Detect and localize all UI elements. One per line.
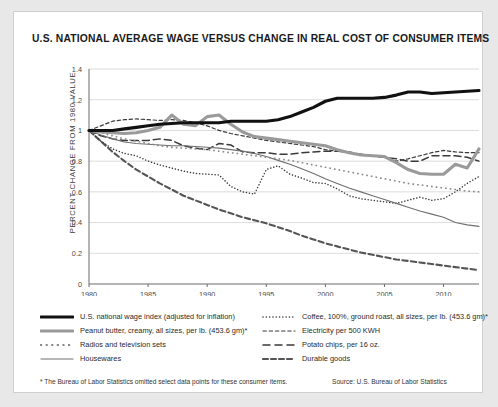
- legend-item-label: Potato chips, per 16 oz.: [302, 339, 380, 351]
- legend-item[interactable]: Radios and television sets: [40, 338, 270, 352]
- legend-swatch-icon: [262, 353, 296, 365]
- legend-item-label: Housewares: [80, 353, 121, 365]
- legend-item[interactable]: U.S. national wage index (adjusted for i…: [40, 310, 270, 324]
- y-tick-label: 1.4: [72, 65, 82, 74]
- legend-item-label: Peanut butter, creamy, all sizes, per lb…: [80, 325, 247, 337]
- x-tick-label: 1980: [81, 290, 97, 296]
- legend-swatch-icon: [40, 353, 74, 365]
- y-tick-label: 1: [78, 126, 82, 135]
- chart-svg: 00.20.40.60.811.21.419801985199019952000…: [27, 56, 484, 296]
- y-tick-label: 0.2: [72, 249, 82, 258]
- x-tick-label: 1995: [258, 290, 274, 296]
- legend-item-label: Radios and television sets: [80, 339, 166, 351]
- series-line: [89, 91, 479, 131]
- legend-swatch-icon: [40, 311, 74, 323]
- plot-area: PERCENT CHANGE FROM 1980 VALUE 00.20.40.…: [27, 56, 484, 296]
- legend-swatch-icon: [40, 339, 74, 351]
- series-line: [89, 130, 479, 270]
- source-text: Source: U.S. Bureau of Labor Statistics: [332, 378, 447, 385]
- page-title: U.S. NATIONAL AVERAGE WAGE VERSUS CHANGE…: [32, 33, 472, 44]
- legend-item-label: Durable goods: [302, 353, 350, 365]
- chart-card: U.S. NATIONAL AVERAGE WAGE VERSUS CHANGE…: [13, 11, 483, 393]
- x-tick-label: 2010: [435, 290, 451, 296]
- x-tick-label: 2000: [317, 290, 333, 296]
- series-line: [89, 130, 479, 161]
- legend-swatch-icon: [262, 339, 296, 351]
- y-tick-label: 1.2: [72, 96, 82, 105]
- legend-item[interactable]: Housewares: [40, 352, 270, 366]
- y-tick-label: 0.4: [72, 218, 82, 227]
- legend-item-label: U.S. national wage index (adjusted for i…: [80, 311, 235, 323]
- y-tick-label: 0.6: [72, 188, 82, 197]
- footnote-text: * The Bureau of Labor Statistics omitted…: [40, 378, 287, 385]
- x-tick-label: 1990: [199, 290, 215, 296]
- x-tick-label: 2005: [376, 290, 392, 296]
- legend-item-label: Coffee, 100%, ground roast, all sizes, p…: [302, 311, 488, 323]
- legend-swatch-icon: [40, 325, 74, 337]
- legend-item[interactable]: Peanut butter, creamy, all sizes, per lb…: [40, 324, 270, 338]
- legend-item[interactable]: Coffee, 100%, ground roast, all sizes, p…: [262, 310, 498, 324]
- legend-item[interactable]: Electricity per 500 KWH: [262, 324, 498, 338]
- y-tick-label: 0.8: [72, 157, 82, 166]
- legend-swatch-icon: [262, 311, 296, 323]
- y-tick-label: 0: [78, 280, 82, 289]
- legend-swatch-icon: [262, 325, 296, 337]
- legend-item-label: Electricity per 500 KWH: [302, 325, 380, 337]
- legend-item[interactable]: Durable goods: [262, 352, 498, 366]
- series-line: [89, 130, 479, 226]
- x-tick-label: 1985: [140, 290, 156, 296]
- legend-item[interactable]: Potato chips, per 16 oz.: [262, 338, 498, 352]
- legend-column-left: U.S. national wage index (adjusted for i…: [40, 310, 270, 366]
- legend-column-right: Coffee, 100%, ground roast, all sizes, p…: [262, 310, 498, 366]
- chart-legend: U.S. national wage index (adjusted for i…: [40, 310, 480, 370]
